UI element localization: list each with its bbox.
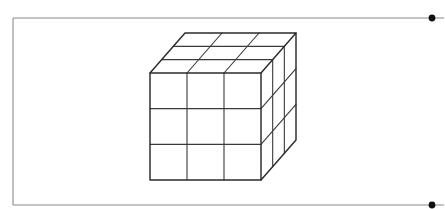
cube-group [150, 33, 296, 180]
top-right-endpoint-dot [429, 15, 436, 22]
figure-canvas [0, 0, 445, 209]
cube-front-face-fill [150, 73, 261, 180]
cube-line-drawing [0, 0, 445, 209]
bottom-right-endpoint-dot [429, 202, 436, 209]
